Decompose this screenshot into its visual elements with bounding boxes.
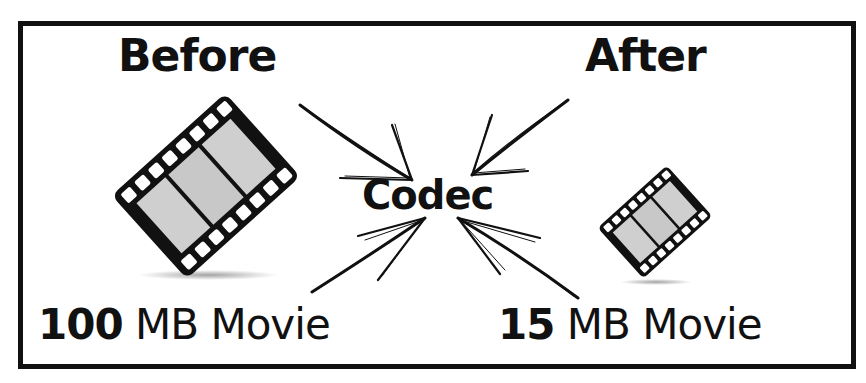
arrow-top-left-icon <box>300 105 412 180</box>
arrow-top-right-icon <box>472 100 568 175</box>
film-strip-icon-large <box>112 93 301 280</box>
arrows <box>300 100 578 298</box>
diagram-graphics <box>0 0 866 383</box>
arrow-bottom-right-icon <box>458 218 578 298</box>
film-strip-icon-small <box>598 166 713 285</box>
arrow-bottom-left-icon <box>312 218 425 292</box>
